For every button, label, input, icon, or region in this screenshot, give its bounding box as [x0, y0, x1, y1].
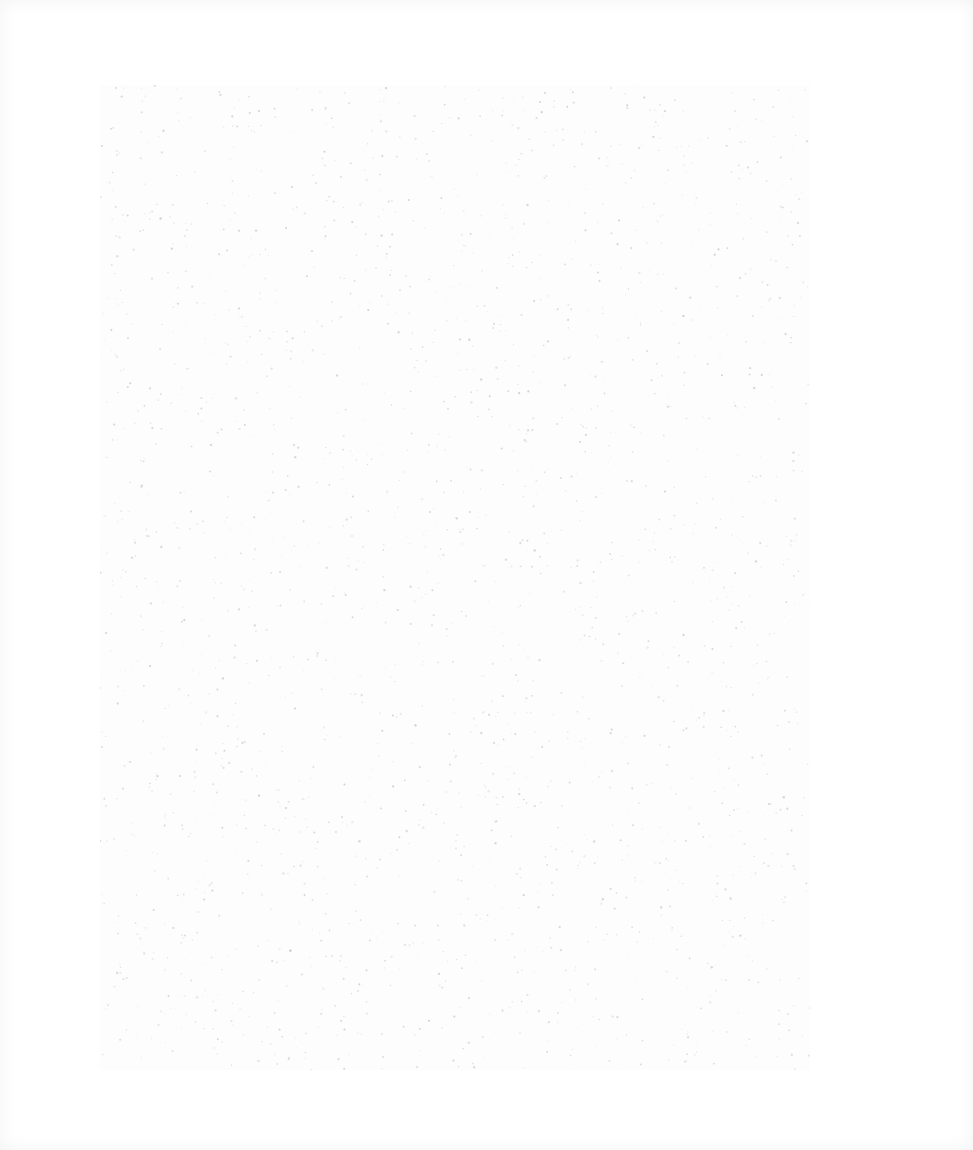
scan-noise-texture [100, 85, 810, 1070]
scanned-page-area [100, 85, 810, 1070]
